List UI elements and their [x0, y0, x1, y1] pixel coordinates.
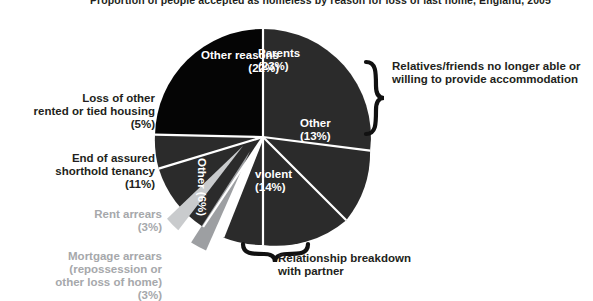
annotation-breakdown-line1: Relationship breakdown — [278, 252, 411, 264]
annotation-relationship-breakdown: Relationship breakdown with partner — [278, 252, 438, 278]
label-end-assured-shorthold: End of assured shorthold tenancy (11%) — [12, 152, 155, 191]
label-loss-pct: (5%) — [131, 118, 155, 130]
label-end-pct: (11%) — [125, 178, 155, 190]
label-parents-name: Parents — [258, 47, 300, 59]
label-parents: Parents (23%) — [258, 47, 344, 73]
annotation-breakdown-line2: with partner — [278, 265, 344, 277]
label-end-line2: shorthold tenancy — [55, 165, 155, 177]
annotation-relatives-friends: Relatives/friends no longer able or will… — [392, 60, 592, 86]
chart-canvas: Proportion of people accepted as homeles… — [0, 0, 593, 301]
label-loss-line2: rented or tied housing — [34, 105, 155, 117]
annotation-relatives-line2: willing to provide accommodation — [392, 73, 578, 85]
label-end-line1: End of assured — [72, 152, 155, 164]
label-mortgage-arrears: Mortgage arrears (repossession or other … — [52, 250, 162, 301]
label-other-relatives-name: Other — [300, 117, 331, 129]
label-violent: violent (14%) — [255, 168, 335, 194]
label-mortgage-line1: Mortgage arrears — [68, 250, 162, 262]
label-other-relatives: Other (13%) — [300, 117, 370, 143]
label-loss-line1: Loss of other — [82, 92, 155, 104]
label-mortgage-line3: other loss of home) — [55, 276, 162, 288]
label-other-breakdown: Other (6%) — [192, 158, 208, 244]
annotation-relatives-line1: Relatives/friends no longer able or — [392, 60, 581, 72]
slice-other-reasons[interactable] — [155, 29, 263, 137]
label-rent-line1: Rent arrears — [94, 208, 162, 220]
label-mortgage-line2: (repossession or — [69, 263, 162, 275]
label-violent-pct: (14%) — [255, 181, 286, 193]
label-loss-other-rented: Loss of other rented or tied housing (5%… — [12, 92, 155, 131]
label-other-relatives-pct: (13%) — [300, 130, 331, 142]
label-rent-pct: (3%) — [138, 221, 162, 233]
label-rent-arrears: Rent arrears (3%) — [50, 208, 162, 234]
label-violent-name: violent — [255, 168, 292, 180]
label-parents-pct: (23%) — [258, 60, 289, 72]
label-mortgage-pct: (3%) — [138, 289, 162, 301]
